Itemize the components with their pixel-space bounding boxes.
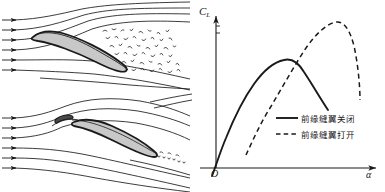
bottom-lower-streamlines bbox=[14, 148, 190, 192]
flow-diagrams-svg bbox=[0, 0, 193, 192]
bottom-panel-top-streamlines bbox=[150, 94, 192, 108]
y-axis-label: CL bbox=[199, 5, 210, 19]
top-airfoil bbox=[32, 31, 127, 71]
legend-label-slat-closed: 前缘缝翼关闭 bbox=[301, 112, 355, 124]
x-axis-label: α bbox=[366, 169, 371, 180]
figure-root: CL O α 前缘缝翼关闭 前缘缝翼打开 bbox=[0, 0, 385, 192]
top-upper-streamlines bbox=[14, 2, 190, 50]
legend-label-slat-open: 前缘缝翼打开 bbox=[301, 128, 355, 140]
cl-alpha-chart-svg bbox=[190, 0, 385, 192]
y-axis-label-sub: L bbox=[206, 11, 210, 19]
bottom-airfoil bbox=[72, 120, 157, 157]
cl-alpha-chart-panel: CL O α 前缘缝翼关闭 前缘缝翼打开 bbox=[190, 0, 385, 192]
bottom-inflow-arrows bbox=[2, 118, 16, 168]
bottom-trailing-edge-marks bbox=[158, 152, 185, 164]
bottom-diagram-group bbox=[2, 94, 192, 192]
origin-label: O bbox=[211, 168, 218, 179]
top-diagram-group bbox=[2, 2, 190, 90]
flow-diagrams-panel bbox=[0, 0, 193, 192]
chart-legend bbox=[276, 118, 298, 134]
top-inflow-arrows bbox=[2, 20, 16, 70]
y-axis-ticks bbox=[216, 26, 220, 33]
